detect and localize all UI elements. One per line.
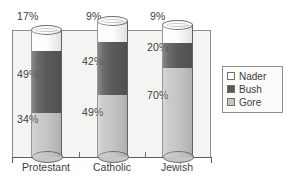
value-label-protestant-bush: 49%	[17, 68, 39, 80]
bar-catholic[interactable]	[97, 21, 128, 157]
segment-catholic-bush[interactable]	[97, 42, 128, 95]
bar-catholic-body	[97, 21, 128, 157]
cylinder-top-cap-icon	[162, 20, 193, 30]
legend-item-gore[interactable]: Gore	[227, 96, 278, 108]
value-label-jewish-bush: 20%	[147, 41, 169, 53]
legend-swatch-nader-icon	[227, 72, 235, 80]
axis-tick-2	[145, 152, 146, 157]
legend-label-gore: Gore	[239, 97, 261, 108]
segment-jewish-gore[interactable]	[162, 68, 193, 157]
legend-swatch-bush-icon	[227, 85, 235, 93]
cylinder-top-cap-icon	[97, 16, 128, 26]
legend-label-nader: Nader	[239, 71, 266, 82]
value-label-catholic-gore: 49%	[82, 106, 104, 118]
value-label-jewish-nader: 9%	[150, 10, 166, 22]
segment-catholic-gore[interactable]	[97, 95, 128, 157]
cylinder-top-cap-icon	[31, 25, 62, 35]
value-label-jewish-gore: 70%	[147, 89, 169, 101]
legend: Nader Bush Gore	[222, 66, 283, 113]
value-label-catholic-bush: 42%	[82, 55, 104, 67]
value-label-protestant-gore: 34%	[17, 113, 39, 125]
stacked-bar-chart: 17% 49% 34% Protestant 9% 42% 49% Cathol…	[0, 0, 286, 181]
legend-swatch-gore-icon	[227, 98, 235, 106]
legend-item-bush[interactable]: Bush	[227, 83, 278, 95]
bar-protestant[interactable]	[31, 30, 62, 157]
value-label-protestant-nader: 17%	[17, 10, 39, 22]
legend-label-bush: Bush	[239, 84, 262, 95]
cylinder-bottom-mask	[98, 157, 129, 163]
bar-protestant-body	[31, 30, 62, 157]
cylinder-bottom-mask	[32, 157, 63, 163]
axis-tick-1	[79, 152, 80, 157]
cylinder-bottom-mask	[163, 157, 194, 163]
segment-protestant-bush[interactable]	[31, 51, 62, 113]
legend-item-nader[interactable]: Nader	[227, 70, 278, 82]
axis-end-cap-right	[211, 157, 212, 163]
